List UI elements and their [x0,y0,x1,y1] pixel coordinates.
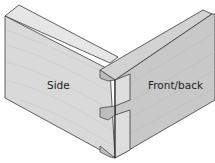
front-back-label: Front/back [148,79,204,91]
side-label: Side [47,79,70,91]
dovetail-joint-diagram: Side Front/back [0,0,215,163]
end-grain-strip [115,74,130,158]
